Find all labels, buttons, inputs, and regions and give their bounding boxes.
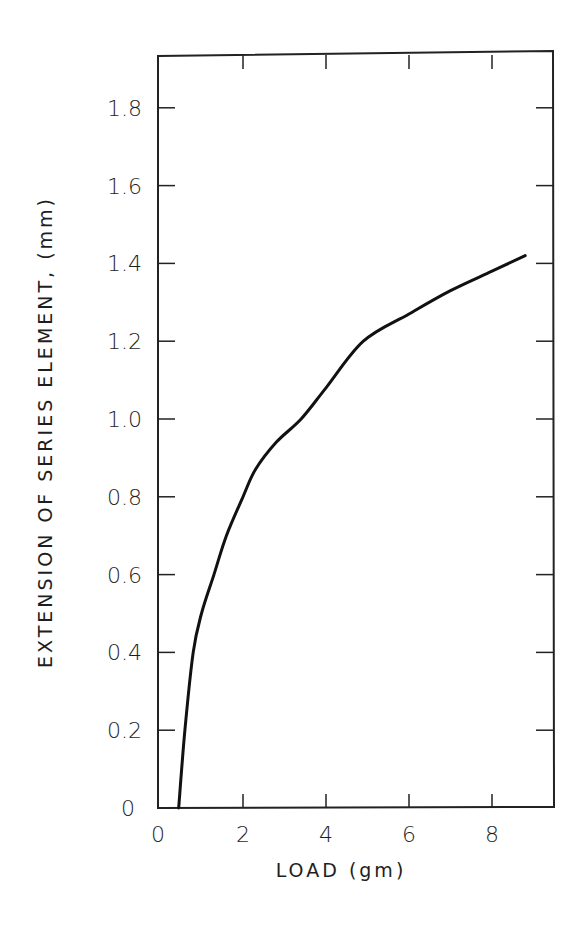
x-tick-label: 4 xyxy=(319,822,333,847)
y-tick-label: 1.8 xyxy=(107,96,142,121)
plot-border xyxy=(158,51,554,808)
series-line xyxy=(179,256,526,808)
y-tick-label: 0.6 xyxy=(107,563,142,588)
y-tick-label: 1.6 xyxy=(107,174,142,199)
y-tick-label: 0.8 xyxy=(107,485,142,510)
x-tick-label: 6 xyxy=(402,822,416,847)
x-axis-title: LOAD (gm) xyxy=(276,859,407,881)
data-series xyxy=(179,256,526,808)
y-tick-label: 0.4 xyxy=(107,640,142,665)
y-tick-label: 1.2 xyxy=(107,329,142,354)
chart: 02468 00.20.40.60.81.01.21.41.61.8 LOAD … xyxy=(0,0,583,930)
x-tick-label: 8 xyxy=(485,822,499,847)
y-tick-label: 1.4 xyxy=(107,251,142,276)
y-axis-tick-labels: 00.20.40.60.81.01.21.41.61.8 xyxy=(107,96,142,821)
y-tick-label: 1.0 xyxy=(107,407,142,432)
x-tick-label: 2 xyxy=(236,822,250,847)
y-axis-ticks xyxy=(158,108,553,730)
plot-frame xyxy=(158,51,554,808)
y-axis-title: EXTENSION OF SERIES ELEMENT, (mm) xyxy=(34,196,56,668)
x-tick-label: 0 xyxy=(151,822,165,847)
x-axis-tick-labels: 02468 xyxy=(151,822,499,847)
y-tick-label: 0 xyxy=(121,796,135,821)
x-axis-ticks xyxy=(243,55,492,808)
y-tick-label: 0.2 xyxy=(107,718,142,743)
